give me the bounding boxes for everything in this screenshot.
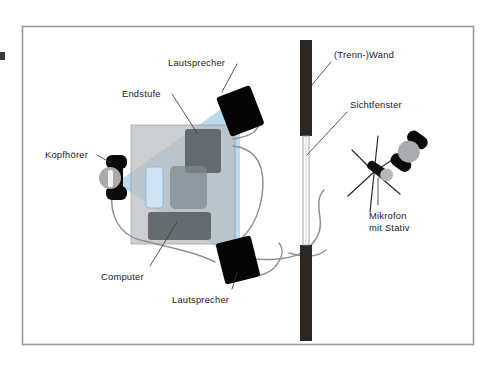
wall-segment-upper: [300, 40, 312, 136]
label-trennwand: (Trenn-)Wand: [334, 49, 394, 61]
monitor-screen: [146, 167, 163, 208]
wall-segment-lower: [300, 245, 312, 341]
diagram-canvas: Lautsprecher Endstufe Kopfhörer Computer…: [0, 0, 496, 369]
viewing-window: [303, 136, 309, 245]
edge-mark: [0, 52, 5, 60]
computer: [148, 212, 211, 240]
label-lautsprecher-bottom: Lautsprecher: [172, 294, 229, 306]
mixing-desk: [170, 166, 207, 209]
label-lautsprecher-top: Lautsprecher: [168, 57, 225, 69]
label-endstufe: Endstufe: [122, 88, 161, 100]
label-computer: Computer: [101, 271, 144, 283]
label-kopfhoerer: Kopfhörer: [45, 149, 88, 161]
label-mikrofon-mit-stativ: Mikrofon mit Stativ: [369, 210, 410, 233]
diagram-svg: [0, 0, 496, 369]
diagram-frame: [23, 27, 474, 345]
label-sichtfenster: Sichtfenster: [350, 99, 402, 111]
